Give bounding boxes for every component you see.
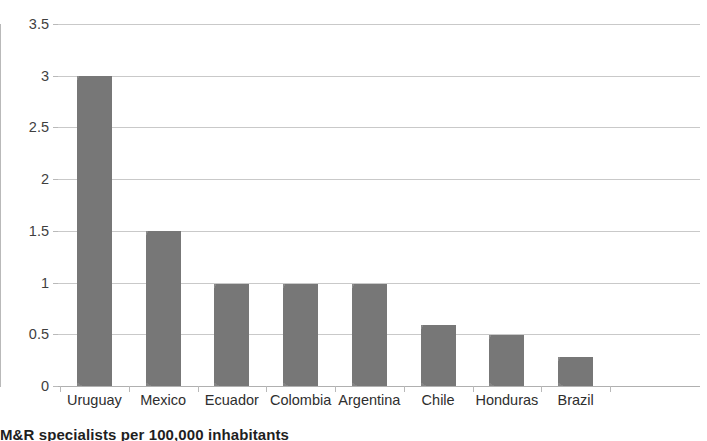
y-tick-label-3: 3 <box>41 68 49 83</box>
x-label-argentina: Argentina <box>338 393 400 408</box>
gridline-3.5 <box>58 24 700 25</box>
y-tick-2 <box>53 179 58 180</box>
bar-honduras <box>489 335 524 386</box>
y-tick-3.5 <box>53 24 58 25</box>
x-tick-0 <box>60 386 61 392</box>
plot-frame: 00.511.522.533.5 <box>58 24 700 386</box>
bar-chile <box>421 325 456 386</box>
y-tick-label-0.5: 0.5 <box>29 327 49 342</box>
bar-chart-figure: 00.511.522.533.5 UruguayMexicoEcuadorCol… <box>0 0 707 441</box>
x-tick-2 <box>198 386 199 392</box>
y-tick-label-1: 1 <box>41 275 49 290</box>
gridline-2.5 <box>58 127 700 128</box>
x-tick-3 <box>266 386 267 392</box>
bar-mexico <box>146 231 181 386</box>
y-tick-label-2.5: 2.5 <box>29 120 49 135</box>
x-tick-8 <box>610 386 611 392</box>
x-tick-5 <box>404 386 405 392</box>
x-label-uruguay: Uruguay <box>67 393 122 408</box>
y-tick-label-3.5: 3.5 <box>29 17 49 32</box>
gridline-3 <box>58 76 700 77</box>
bar-argentina <box>352 284 387 386</box>
x-label-chile: Chile <box>422 393 455 408</box>
plot-area: 00.511.522.533.5 <box>58 24 700 386</box>
gridline-2 <box>58 179 700 180</box>
x-axis-labels: UruguayMexicoEcuadorColombiaArgentinaChi… <box>58 393 700 415</box>
x-tick-7 <box>541 386 542 392</box>
bar-brazil <box>558 357 593 386</box>
x-tick-6 <box>473 386 474 392</box>
y-tick-0 <box>53 386 58 387</box>
y-tick-label-0: 0 <box>41 379 49 394</box>
bar-uruguay <box>77 76 112 386</box>
x-label-ecuador: Ecuador <box>205 393 259 408</box>
y-tick-1 <box>53 283 58 284</box>
chart-caption: M&R specialists per 100,000 inhabitants <box>0 427 707 441</box>
x-label-honduras: Honduras <box>475 393 538 408</box>
bar-ecuador <box>214 284 249 386</box>
x-label-mexico: Mexico <box>140 393 186 408</box>
x-label-colombia: Colombia <box>270 393 331 408</box>
y-tick-label-1.5: 1.5 <box>29 224 49 239</box>
x-tick-4 <box>335 386 336 392</box>
chart-caption-text: M&R specialists per 100,000 inhabitants <box>0 427 289 441</box>
y-tick-1.5 <box>53 231 58 232</box>
y-tick-label-2: 2 <box>41 172 49 187</box>
x-label-brazil: Brazil <box>557 393 593 408</box>
y-tick-0.5 <box>53 334 58 335</box>
y-axis-line <box>0 24 1 387</box>
bar-colombia <box>283 284 318 386</box>
gridline-0 <box>58 386 700 387</box>
y-tick-2.5 <box>53 127 58 128</box>
x-tick-1 <box>129 386 130 392</box>
y-tick-3 <box>53 76 58 77</box>
